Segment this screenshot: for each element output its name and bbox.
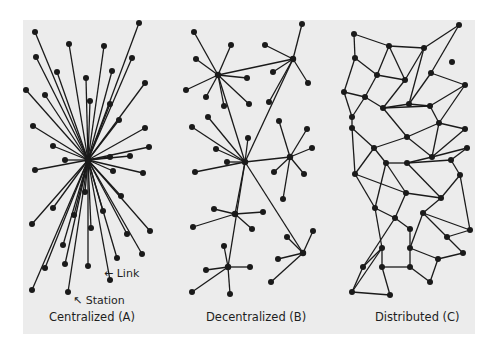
- station-node: [66, 41, 72, 47]
- station-node: [101, 43, 107, 49]
- link-edge: [45, 95, 88, 160]
- link-edge: [235, 212, 263, 214]
- station-node: [215, 72, 221, 78]
- station-node: [189, 124, 195, 130]
- station-node: [349, 289, 355, 295]
- link-edge: [193, 214, 235, 227]
- station-node: [372, 205, 378, 211]
- station-node: [427, 103, 433, 109]
- link-edge: [293, 59, 308, 83]
- link-edge: [460, 175, 470, 230]
- station-node: [87, 98, 93, 104]
- station-node: [193, 56, 199, 62]
- station-node: [50, 143, 56, 149]
- station-node: [88, 225, 94, 231]
- link-edge: [407, 137, 432, 157]
- station-node: [136, 20, 142, 26]
- station-node: [352, 171, 358, 177]
- station-node: [60, 242, 66, 248]
- link-edge: [386, 163, 406, 193]
- station-node: [467, 227, 473, 233]
- station-node: [189, 289, 195, 295]
- station-node: [246, 101, 252, 107]
- link-edge: [192, 127, 245, 162]
- link-edge: [410, 248, 438, 259]
- link-edge: [354, 34, 355, 58]
- link-edge: [57, 72, 88, 160]
- link-edge: [228, 267, 230, 294]
- link-edge: [430, 259, 438, 282]
- arrow-left-icon: ←: [104, 267, 113, 280]
- station-node: [30, 123, 36, 129]
- station-node: [310, 228, 316, 234]
- station-node: [299, 21, 305, 27]
- link-edge: [406, 193, 441, 198]
- station-node: [129, 55, 135, 61]
- station-node: [242, 159, 248, 165]
- station-node: [379, 245, 385, 251]
- link-edge: [365, 97, 383, 108]
- station-node: [456, 22, 462, 28]
- station-node: [221, 243, 227, 249]
- link-edge: [63, 160, 88, 245]
- link-edge: [423, 213, 470, 230]
- station-node: [228, 42, 234, 48]
- station-annotation: ↖ Station: [73, 294, 125, 307]
- station-node: [142, 125, 148, 131]
- link-edge: [355, 58, 377, 75]
- link-edge: [354, 34, 389, 46]
- station-node: [42, 92, 48, 98]
- station-node: [109, 68, 115, 74]
- station-node: [205, 114, 211, 120]
- station-node: [85, 263, 91, 269]
- station-node: [83, 75, 89, 81]
- link-edge: [235, 214, 252, 229]
- link-edge: [344, 58, 355, 92]
- station-node: [42, 265, 48, 271]
- station-node: [50, 205, 56, 211]
- station-node: [427, 279, 433, 285]
- link-edge: [395, 193, 406, 218]
- station-node: [341, 89, 347, 95]
- station-node: [301, 171, 307, 177]
- caption-distributed: Distributed (C): [375, 310, 460, 324]
- station-node: [349, 125, 355, 131]
- link-edge: [224, 246, 228, 267]
- link-edge: [424, 25, 459, 48]
- station-node: [139, 251, 145, 257]
- station-node: [404, 160, 410, 166]
- station-node: [33, 54, 39, 60]
- link-edge: [431, 73, 465, 85]
- link-edge: [365, 75, 377, 97]
- station-node: [462, 126, 468, 132]
- station-node: [360, 264, 366, 270]
- link-edge: [216, 149, 245, 162]
- station-label: Station: [86, 294, 125, 307]
- caption-centralized: Centralized (A): [49, 310, 135, 324]
- link-edge: [431, 25, 459, 73]
- station-node: [379, 264, 385, 270]
- station-node: [110, 168, 116, 174]
- station-node: [392, 215, 398, 221]
- station-node: [407, 226, 413, 232]
- station-node: [203, 94, 209, 100]
- link-edge: [218, 45, 231, 75]
- link-edge: [439, 123, 465, 129]
- station-node: [407, 245, 413, 251]
- station-node: [114, 255, 120, 261]
- link-edge: [214, 209, 235, 214]
- station-node: [262, 42, 268, 48]
- link-edge: [409, 73, 431, 104]
- station-node: [62, 261, 68, 267]
- link-edge: [88, 71, 112, 160]
- station-node: [300, 250, 306, 256]
- link-edge: [374, 137, 407, 148]
- station-node: [147, 228, 153, 234]
- link-edge: [245, 157, 290, 162]
- link-edge: [352, 267, 363, 292]
- station-node: [203, 267, 209, 273]
- station-node: [224, 159, 230, 165]
- station-node: [275, 256, 281, 262]
- link-edge: [410, 267, 430, 282]
- link-edge: [279, 121, 290, 157]
